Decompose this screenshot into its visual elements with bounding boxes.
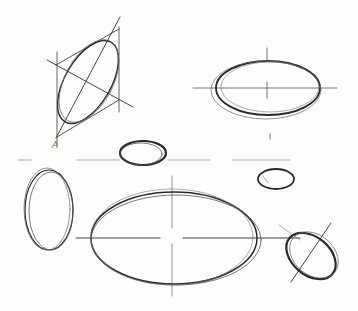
tilted-ellipse-bottom-right — [277, 222, 347, 288]
annotation-a: A — [52, 140, 58, 150]
ellipse-sketch-drawing — [0, 0, 358, 311]
vertical-ellipse-left — [24, 168, 73, 250]
small-ellipse-center — [120, 141, 166, 165]
sketch-canvas: A — [0, 0, 358, 311]
horizontal-ellipse-top-right — [193, 48, 337, 139]
large-ellipse-bottom — [76, 176, 300, 296]
small-ellipse-right — [258, 169, 294, 189]
tilted-ellipse-in-rhombus — [45, 17, 133, 146]
